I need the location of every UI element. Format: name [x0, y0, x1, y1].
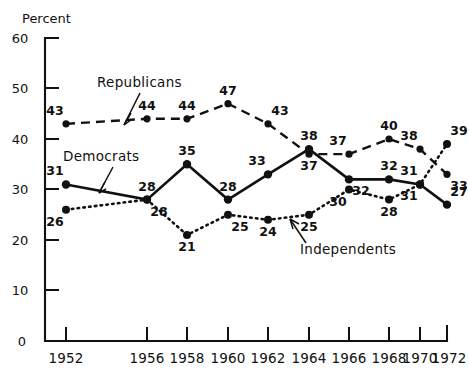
point-value-label: 26 — [46, 214, 64, 229]
point-value-label: 27 — [450, 184, 467, 199]
data-point — [224, 100, 231, 107]
point-value-label: 38 — [300, 128, 317, 143]
point-value-label: 47 — [219, 83, 236, 98]
x-tick-1952: 1952 — [48, 350, 83, 366]
data-point — [62, 120, 69, 127]
data-point — [224, 195, 232, 203]
point-value-label: 31 — [400, 188, 417, 203]
point-value-label: 32 — [352, 183, 369, 198]
y-tick-60: 60 — [12, 31, 29, 46]
data-point — [385, 196, 393, 204]
x-tick-1968: 1968 — [371, 350, 406, 366]
data-point — [62, 180, 70, 188]
data-point — [183, 231, 191, 239]
x-axis-tick-labels: 1952 1956 1958 1960 1962 1964 1966 1968 … — [48, 350, 466, 366]
point-value-label: 30 — [329, 194, 347, 209]
independents-label: Independents — [300, 241, 396, 257]
point-value-label: 44 — [138, 98, 156, 113]
point-value-label: 28 — [150, 204, 167, 219]
data-point — [345, 151, 352, 158]
point-value-label: 43 — [46, 103, 63, 118]
data-point — [345, 175, 353, 183]
point-value-label: 35 — [178, 143, 195, 158]
data-point — [143, 196, 151, 204]
y-axis-ticks — [45, 38, 59, 341]
point-value-label: 28 — [380, 204, 397, 219]
x-tick-1972: 1972 — [431, 350, 466, 366]
point-value-label: 28 — [138, 179, 155, 194]
point-value-label: 37 — [329, 133, 346, 148]
point-value-label: 25 — [231, 219, 248, 234]
x-tick-1962: 1962 — [250, 350, 285, 366]
point-value-label: 28 — [219, 179, 236, 194]
data-point — [416, 146, 423, 153]
data-point — [183, 160, 191, 168]
republicans-label: Republicans — [97, 74, 182, 90]
data-point — [143, 115, 150, 122]
point-value-label: 38 — [400, 128, 417, 143]
point-value-label: 40 — [380, 118, 398, 133]
x-tick-1966: 1966 — [331, 350, 366, 366]
data-point — [443, 171, 450, 178]
x-tick-1964: 1964 — [291, 350, 326, 366]
data-point — [416, 180, 424, 188]
democrats-label: Democrats — [63, 148, 139, 164]
point-value-label: 43 — [271, 103, 288, 118]
data-point — [443, 200, 451, 208]
data-point — [264, 170, 272, 178]
x-axis-ticks — [66, 325, 447, 341]
data-point — [443, 140, 451, 148]
data-point — [305, 211, 313, 219]
y-tick-30: 30 — [12, 182, 29, 197]
point-value-label: 44 — [178, 98, 196, 113]
data-point — [62, 206, 70, 214]
x-tick-1958: 1958 — [169, 350, 204, 366]
point-value-label: 25 — [300, 219, 317, 234]
y-axis-tick-labels: 60 50 40 30 20 10 0 — [12, 31, 29, 349]
y-tick-20: 20 — [12, 233, 29, 248]
data-point — [224, 211, 232, 219]
point-value-label: 39 — [450, 123, 467, 138]
data-point — [183, 115, 190, 122]
data-point — [305, 145, 313, 153]
data-point — [385, 135, 392, 142]
x-tick-1956: 1956 — [129, 350, 164, 366]
point-value-label: 33 — [248, 153, 265, 168]
y-axis-title: Percent — [22, 11, 71, 26]
y-tick-40: 40 — [12, 132, 29, 147]
point-value-label: 21 — [178, 239, 195, 254]
x-tick-1960: 1960 — [210, 350, 245, 366]
point-value-label: 31 — [400, 163, 417, 178]
chart-container: Percent 60 50 40 30 20 10 0 — [0, 0, 469, 385]
point-value-label: 32 — [380, 158, 397, 173]
data-point — [385, 175, 393, 183]
y-tick-10: 10 — [12, 283, 29, 298]
y-tick-50: 50 — [12, 81, 29, 96]
point-value-label: 31 — [46, 163, 63, 178]
data-point — [264, 216, 272, 224]
y-tick-0: 0 — [18, 334, 26, 349]
independents-arrowhead — [290, 219, 299, 229]
point-value-label: 37 — [300, 158, 317, 173]
line-chart: Percent 60 50 40 30 20 10 0 — [0, 0, 469, 385]
data-point — [264, 120, 271, 127]
point-value-label: 24 — [259, 224, 277, 239]
